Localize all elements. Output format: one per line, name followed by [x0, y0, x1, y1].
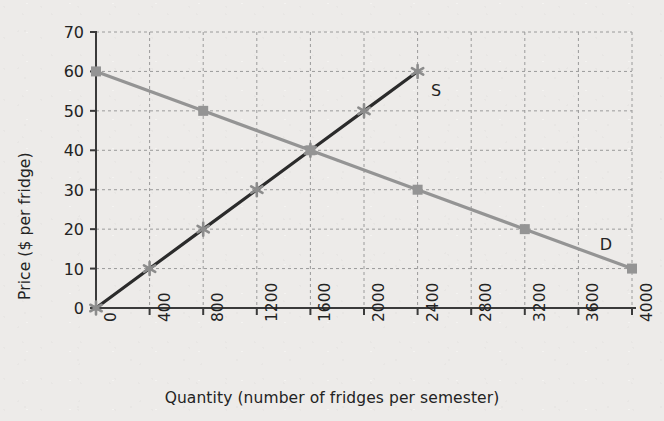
x-tick-label: 2000 — [370, 283, 388, 322]
y-tick-label: 20 — [44, 220, 84, 239]
x-tick-label: 4000 — [638, 283, 656, 322]
x-tick-label: 400 — [156, 292, 174, 322]
x-tick-label: 3200 — [531, 283, 549, 322]
data-point-marker-d — [413, 185, 423, 195]
plot-area — [0, 0, 664, 421]
y-tick-label: 70 — [44, 23, 84, 42]
y-tick-label: 40 — [44, 141, 84, 160]
data-point-marker-d — [198, 106, 208, 116]
data-point-marker-d — [627, 264, 637, 274]
y-tick-label: 50 — [44, 102, 84, 121]
x-tick-label: 1200 — [263, 283, 281, 322]
series-label-d: D — [600, 235, 612, 254]
y-axis-title: Price ($ per fridge) — [16, 0, 38, 300]
supply-demand-chart: Price ($ per fridge) Quantity (number of… — [0, 0, 664, 421]
data-point-marker-d — [91, 66, 101, 76]
x-tick-label: 800 — [209, 292, 227, 322]
y-tick-label: 10 — [44, 260, 84, 279]
y-tick-label: 0 — [44, 299, 84, 318]
x-tick-label: 2800 — [477, 283, 495, 322]
x-tick-label: 0 — [102, 312, 120, 322]
x-tick-label: 1600 — [316, 283, 334, 322]
data-point-marker-d — [305, 145, 315, 155]
series-label-s: S — [431, 81, 441, 100]
x-axis-title: Quantity (number of fridges per semester… — [0, 389, 664, 407]
x-tick-label: 2400 — [424, 283, 442, 322]
data-point-marker-d — [520, 224, 530, 234]
x-tick-label: 3600 — [584, 283, 602, 322]
y-tick-label: 60 — [44, 62, 84, 81]
y-tick-label: 30 — [44, 181, 84, 200]
